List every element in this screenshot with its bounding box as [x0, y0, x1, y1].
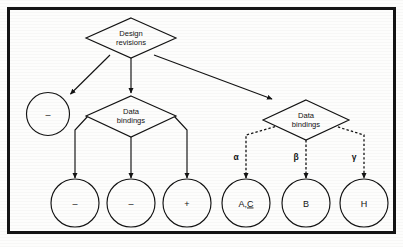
edge-right-diamond-to-circle-ac	[246, 123, 288, 178]
diagram-page: Design revisions Data bindings Data bind…	[0, 0, 403, 247]
left-data-bindings-label-line2: bindings	[117, 116, 145, 125]
node-left-circle-3[interactable]: +	[163, 179, 211, 227]
node-right-circle-ac[interactable]: A,C	[222, 179, 270, 227]
node-right-circle-b[interactable]: B	[282, 179, 330, 227]
right-circle-ac-label-plain: A,	[238, 199, 247, 209]
edge-left-diamond-to-circle-1	[75, 116, 88, 178]
edge-label-gamma: γ	[352, 152, 357, 162]
left-circle-2-label: –	[128, 199, 133, 209]
design-revisions-label-line1: Design	[119, 29, 143, 38]
left-data-bindings-label-line1: Data	[123, 107, 140, 116]
right-data-bindings-label-line2: bindings	[292, 120, 320, 129]
design-revisions-label-line2: revisions	[116, 38, 146, 47]
left-circle-1-label: –	[72, 199, 77, 209]
node-left-circle-2[interactable]: –	[107, 179, 155, 227]
right-circle-b-label: B	[303, 199, 309, 209]
left-circle-3-label: +	[184, 199, 189, 209]
edge-label-alpha: α	[233, 152, 239, 162]
right-data-bindings-label-line1: Data	[298, 111, 315, 120]
edge-right-diamond-to-circle-h	[325, 123, 364, 178]
node-right-data-bindings[interactable]: Data bindings	[263, 100, 349, 140]
orphan-circle-label: –	[45, 110, 50, 120]
node-right-circle-h[interactable]: H	[340, 179, 388, 227]
edge-root-to-orphan-circle	[71, 55, 111, 94]
edge-root-to-right-diamond	[154, 55, 272, 99]
edge-left-diamond-to-circle-3	[174, 116, 187, 178]
edge-label-beta: β	[293, 152, 298, 162]
node-left-data-bindings[interactable]: Data bindings	[86, 96, 176, 137]
node-design-revisions[interactable]: Design revisions	[86, 18, 176, 58]
right-circle-h-label: H	[361, 199, 368, 209]
diagram-canvas: Design revisions Data bindings Data bind…	[0, 0, 403, 247]
node-orphan-circle[interactable]: –	[27, 93, 70, 136]
node-left-circle-1[interactable]: –	[51, 179, 99, 227]
svg-text:A,C: A,C	[238, 199, 254, 209]
right-circle-ac-label-underlined: C	[247, 199, 254, 209]
